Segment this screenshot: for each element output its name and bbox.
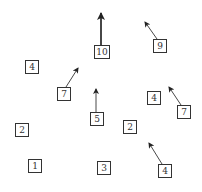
node-label: 7 <box>181 108 187 117</box>
node-label: 5 <box>94 115 100 124</box>
node-box: 2 <box>123 120 137 134</box>
node-label: 4 <box>29 63 35 72</box>
node-box: 4 <box>25 60 39 74</box>
node-label: 4 <box>162 167 168 176</box>
node-label: 9 <box>157 42 163 51</box>
node-box: 5 <box>90 112 104 126</box>
node-box: 4 <box>147 91 161 105</box>
node-box: 9 <box>153 39 167 53</box>
node-label: 3 <box>101 164 107 173</box>
arrow-icon <box>66 68 78 87</box>
node-box: 3 <box>97 161 111 175</box>
node-label: 2 <box>127 123 133 132</box>
node-box: 7 <box>57 87 71 101</box>
node-label: 7 <box>61 90 67 99</box>
diagram-canvas: 4 10 9 7 5 4 7 2 2 4 1 3 <box>0 0 202 192</box>
node-label: 10 <box>96 48 107 57</box>
node-box: 2 <box>15 123 29 137</box>
node-label: 1 <box>32 162 38 171</box>
node-box: 7 <box>177 105 191 119</box>
node-box: 4 <box>158 164 172 178</box>
arrow-icon <box>149 143 162 164</box>
node-label: 2 <box>19 126 25 135</box>
node-box: 10 <box>94 45 110 59</box>
node-box: 1 <box>28 159 42 173</box>
node-label: 4 <box>151 94 157 103</box>
arrow-icon <box>145 22 157 39</box>
arrow-icon <box>169 87 181 105</box>
